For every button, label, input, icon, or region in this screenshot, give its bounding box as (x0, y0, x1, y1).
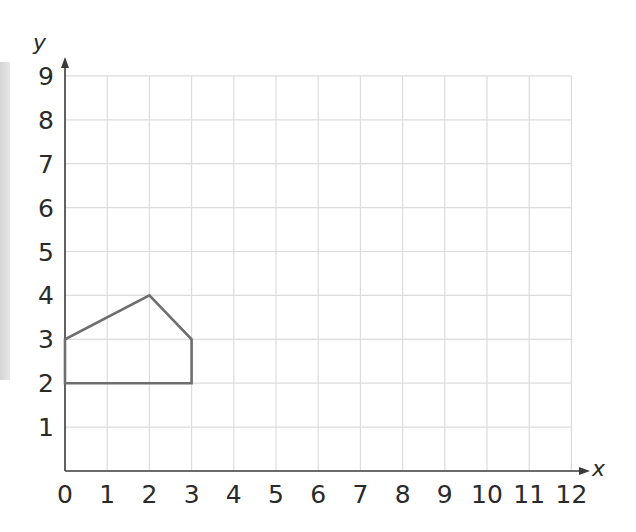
x-tick-label: 9 (437, 480, 453, 509)
y-tick-label: 9 (38, 62, 54, 91)
x-tick-label: 10 (471, 480, 503, 509)
x-axis-tick-labels: 0123456789101112 (57, 480, 587, 509)
y-tick-label: 5 (38, 238, 54, 267)
y-tick-label: 3 (38, 325, 54, 354)
x-tick-label: 6 (310, 480, 326, 509)
x-tick-label: 11 (513, 480, 545, 509)
x-tick-label: 12 (555, 480, 587, 509)
y-tick-label: 1 (38, 413, 54, 442)
x-tick-label: 5 (268, 480, 284, 509)
y-axis-label: y (32, 30, 47, 55)
x-tick-label: 2 (141, 480, 157, 509)
grid-lines (65, 76, 571, 471)
x-tick-label: 8 (395, 480, 411, 509)
y-tick-label: 6 (38, 194, 54, 223)
y-tick-label: 4 (38, 281, 54, 310)
x-tick-label: 1 (99, 480, 115, 509)
x-axis-arrow-icon (579, 467, 590, 475)
x-tick-label: 7 (352, 480, 368, 509)
x-tick-label: 4 (226, 480, 242, 509)
y-tick-label: 7 (38, 150, 54, 179)
coordinate-grid-chart: 0123456789101112 123456789 x y (0, 0, 636, 532)
x-axis-label: x (591, 456, 606, 481)
y-tick-label: 8 (38, 106, 54, 135)
y-tick-label: 2 (38, 369, 54, 398)
x-tick-label: 0 (57, 480, 73, 509)
y-axis-tick-labels: 123456789 (38, 62, 54, 442)
x-tick-label: 3 (184, 480, 200, 509)
y-axis-arrow-icon (61, 57, 69, 68)
